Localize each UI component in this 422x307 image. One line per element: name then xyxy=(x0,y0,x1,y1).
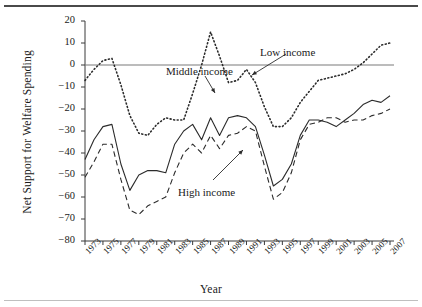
series-line-middle-income xyxy=(85,96,390,191)
y-tick-label: −40 xyxy=(45,146,75,157)
y-tick-label: −10 xyxy=(45,80,75,91)
y-tick-label: −20 xyxy=(45,102,75,113)
figure-container: Net Support for Welfare Spending Year 20… xyxy=(0,0,422,307)
y-tick-label: −80 xyxy=(45,234,75,245)
y-tick-label: −70 xyxy=(45,212,75,223)
y-tick-label: 10 xyxy=(45,36,75,47)
annotation-low-income: Low income xyxy=(260,46,315,58)
y-tick-label: −60 xyxy=(45,190,75,201)
y-axis-label: Net Support for Welfare Spending xyxy=(21,32,33,232)
y-tick-label: −50 xyxy=(45,168,75,179)
y-tick-label: −30 xyxy=(45,124,75,135)
series-line-high-income xyxy=(85,109,390,215)
x-axis-label: Year xyxy=(0,283,422,295)
annotation-middle-income: Middle income xyxy=(166,65,233,77)
series-line-low-income xyxy=(85,32,390,135)
annotation-high-income: High income xyxy=(178,186,235,198)
y-tick-label: 0 xyxy=(45,58,75,69)
y-tick-label: 20 xyxy=(45,14,75,25)
